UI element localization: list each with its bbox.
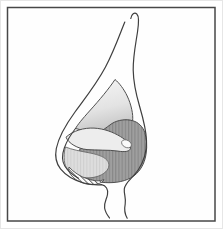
nasal-anatomy-diagram [0,0,223,229]
figure-canvas [0,0,223,229]
